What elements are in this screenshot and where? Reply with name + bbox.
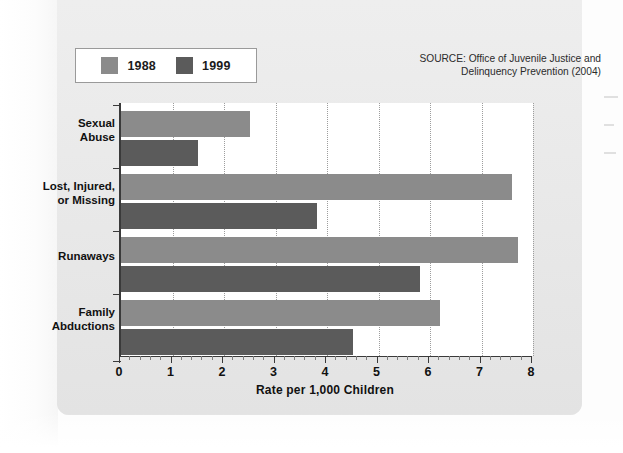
category-label-line: Sexual bbox=[3, 117, 115, 131]
legend-swatch-icon bbox=[176, 57, 193, 74]
page-bottom-margin bbox=[0, 413, 623, 453]
x-tick-label: 4 bbox=[322, 365, 329, 379]
bar-1999 bbox=[121, 266, 420, 292]
x-tick-minor bbox=[263, 356, 264, 360]
category-label-line: Runaways bbox=[3, 250, 115, 264]
x-tick-minor bbox=[397, 356, 398, 360]
category-label-line: Family bbox=[3, 306, 115, 320]
x-tick-minor bbox=[129, 356, 130, 360]
x-tick-minor bbox=[304, 356, 305, 360]
category-label-line: Lost, Injured, bbox=[3, 180, 115, 194]
bar-group bbox=[121, 237, 533, 292]
category-tick bbox=[113, 294, 121, 295]
bar-1999 bbox=[121, 329, 353, 355]
category-tick bbox=[113, 231, 121, 232]
x-tick-label: 8 bbox=[528, 365, 535, 379]
category-label-line: or Missing bbox=[3, 194, 115, 208]
bar-group bbox=[121, 111, 533, 166]
x-tick-major bbox=[531, 356, 532, 363]
x-tick-minor bbox=[490, 356, 491, 360]
x-tick-minor bbox=[459, 356, 460, 360]
scanned-page: 1988 1999 SOURCE: Office of Juvenile Jus… bbox=[0, 0, 623, 453]
x-tick-major bbox=[377, 356, 378, 363]
category-tick bbox=[113, 168, 121, 169]
x-tick-label: 6 bbox=[425, 365, 432, 379]
bar-1999 bbox=[121, 203, 317, 229]
x-tick-minor bbox=[500, 356, 501, 360]
x-tick-minor bbox=[407, 356, 408, 360]
x-tick-major bbox=[119, 356, 120, 363]
x-tick-major bbox=[274, 356, 275, 363]
legend-label: 1988 bbox=[127, 59, 156, 73]
x-tick-major bbox=[222, 356, 223, 363]
x-tick-minor bbox=[469, 356, 470, 360]
x-tick-minor bbox=[294, 356, 295, 360]
x-tick-label: 7 bbox=[476, 365, 483, 379]
x-tick-minor bbox=[243, 356, 244, 360]
bar-1988 bbox=[121, 111, 250, 137]
category-label-line: Abuse bbox=[3, 131, 115, 145]
category-label-line: Abductions bbox=[3, 320, 115, 334]
bar-1988 bbox=[121, 300, 440, 326]
x-tick-minor bbox=[438, 356, 439, 360]
category-axis-labels: Sexual Abuse Lost, Injured, or Missing R… bbox=[0, 103, 115, 356]
bar-1988 bbox=[121, 174, 512, 200]
x-tick-minor bbox=[387, 356, 388, 360]
x-tick-minor bbox=[160, 356, 161, 360]
x-tick-minor bbox=[181, 356, 182, 360]
x-tick-minor bbox=[521, 356, 522, 360]
x-tick-minor bbox=[315, 356, 316, 360]
x-tick-minor bbox=[140, 356, 141, 360]
x-tick-minor bbox=[335, 356, 336, 360]
x-tick-minor bbox=[191, 356, 192, 360]
x-axis-title: Rate per 1,000 Children bbox=[119, 383, 531, 397]
x-tick-minor bbox=[366, 356, 367, 360]
x-tick-label: 5 bbox=[373, 365, 380, 379]
x-tick-minor bbox=[418, 356, 419, 360]
x-tick-major bbox=[428, 356, 429, 363]
x-tick-minor bbox=[284, 356, 285, 360]
scan-artifact-mark bbox=[604, 96, 618, 98]
x-tick-minor bbox=[356, 356, 357, 360]
category-label-sexual-abuse: Sexual Abuse bbox=[3, 117, 115, 144]
x-tick-major bbox=[171, 356, 172, 363]
x-tick-minor bbox=[449, 356, 450, 360]
x-tick-minor bbox=[346, 356, 347, 360]
x-tick-minor bbox=[201, 356, 202, 360]
bar-1999 bbox=[121, 140, 198, 166]
chart-legend: 1988 1999 bbox=[75, 48, 257, 83]
x-axis: 012345678 bbox=[119, 356, 531, 357]
x-tick-label: 0 bbox=[116, 365, 123, 379]
legend-item-1988: 1988 bbox=[101, 57, 156, 74]
x-tick-minor bbox=[150, 356, 151, 360]
x-tick-minor bbox=[212, 356, 213, 360]
category-label-lost-injured-missing: Lost, Injured, or Missing bbox=[3, 180, 115, 207]
x-tick-label: 1 bbox=[167, 365, 174, 379]
category-tick bbox=[113, 105, 121, 106]
x-tick-label: 2 bbox=[219, 365, 226, 379]
legend-swatch-icon bbox=[101, 57, 118, 74]
x-tick-minor bbox=[253, 356, 254, 360]
bar-group bbox=[121, 300, 533, 355]
source-note: SOURCE: Office of Juvenile Justice and D… bbox=[386, 52, 601, 78]
bar-1988 bbox=[121, 237, 518, 263]
scan-artifact-mark bbox=[604, 124, 614, 126]
x-tick-major bbox=[480, 356, 481, 363]
legend-label: 1999 bbox=[202, 59, 231, 73]
category-label-runaways: Runaways bbox=[3, 250, 115, 264]
gridline bbox=[533, 103, 535, 356]
x-tick-major bbox=[325, 356, 326, 363]
scan-artifact-mark bbox=[604, 152, 616, 154]
x-tick-minor bbox=[232, 356, 233, 360]
x-tick-label: 3 bbox=[270, 365, 277, 379]
plot-area bbox=[119, 103, 533, 356]
legend-item-1999: 1999 bbox=[176, 57, 231, 74]
category-label-family-abductions: Family Abductions bbox=[3, 306, 115, 333]
x-tick-minor bbox=[510, 356, 511, 360]
bar-group bbox=[121, 174, 533, 229]
